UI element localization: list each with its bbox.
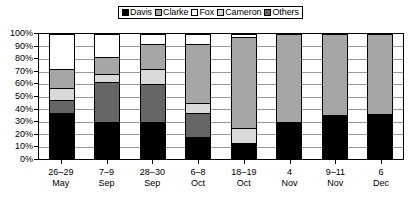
bar-2[interactable] <box>94 34 120 159</box>
y-axis-tick-label: 30% <box>15 117 33 126</box>
bar-segment-fox <box>185 34 211 44</box>
x-axis-label-month: Nov <box>267 178 313 189</box>
plot-area <box>38 33 404 160</box>
bar-8[interactable] <box>367 34 393 159</box>
x-axis-label-day: 4 <box>267 167 313 178</box>
x-axis-category-1: 26–29May <box>38 160 84 198</box>
x-axis-label-month: Sep <box>130 178 176 189</box>
x-axis-label-month: Nov <box>313 178 359 189</box>
x-axis-label-day: 9–11 <box>313 167 359 178</box>
bar-7[interactable] <box>322 34 348 159</box>
bar-slot <box>39 34 85 159</box>
bar-slot <box>358 34 404 159</box>
legend-item-fox[interactable]: Fox <box>191 8 214 17</box>
bar-segment-cameron <box>49 88 75 101</box>
legend-swatch-icon <box>122 9 129 16</box>
bar-segment-davis <box>185 137 211 160</box>
y-axis: 100%90%80%70%60%50%40%30%20%10%0% <box>0 33 38 160</box>
legend-item-label: Clarke <box>163 8 188 17</box>
legend-swatch-icon <box>264 9 271 16</box>
y-axis-tick-label: 0% <box>20 155 33 164</box>
bar-segment-others <box>49 100 75 113</box>
legend-item-label: Others <box>272 8 298 17</box>
y-axis-tick-label: 60% <box>15 79 33 88</box>
x-axis: 26–29May7–9Sep28–30Sep6–8Oct18–19Oct4Nov… <box>38 160 404 198</box>
bar-segment-others <box>185 113 211 137</box>
bar-segment-davis <box>94 122 120 160</box>
bar-segment-davis <box>140 122 166 160</box>
legend-swatch-icon <box>217 9 224 16</box>
x-axis-category-3: 28–30Sep <box>130 160 176 198</box>
bar-slot <box>130 34 176 159</box>
x-axis-label-day: 6 <box>358 167 404 178</box>
bar-segment-fox <box>94 34 120 57</box>
bar-4[interactable] <box>185 34 211 159</box>
x-axis-label-month: Dec <box>358 178 404 189</box>
bar-segment-clarke <box>322 34 348 115</box>
legend-item-label: Cameron <box>225 8 261 17</box>
x-axis-label-day: 6–8 <box>175 167 221 178</box>
x-axis-label-month: May <box>38 178 84 189</box>
bar-3[interactable] <box>140 34 166 159</box>
x-axis-category-8: 6Dec <box>358 160 404 198</box>
y-axis-tick-label: 10% <box>15 142 33 151</box>
bar-segment-fox <box>49 34 75 69</box>
bar-slot <box>221 34 267 159</box>
x-axis-tick-mark <box>107 160 108 164</box>
x-axis-label-month: Oct <box>175 178 221 189</box>
bar-slot <box>267 34 313 159</box>
bar-segment-davis <box>276 122 302 160</box>
legend-item-label: Fox <box>199 8 214 17</box>
x-axis-category-7: 9–11Nov <box>313 160 359 198</box>
bar-slot <box>176 34 222 159</box>
x-axis-tick-mark <box>381 160 382 164</box>
x-axis-category-5: 18–19Oct <box>221 160 267 198</box>
bar-segment-clarke <box>185 44 211 103</box>
bar-slot <box>85 34 131 159</box>
x-axis-label-day: 28–30 <box>130 167 176 178</box>
x-axis-label-month: Oct <box>221 178 267 189</box>
bar-segment-cameron <box>185 103 211 113</box>
y-axis-tick-label: 90% <box>15 42 33 51</box>
x-axis-label-month: Sep <box>84 178 130 189</box>
legend-item-clarke[interactable]: Clarke <box>155 8 188 17</box>
bar-segment-clarke <box>49 69 75 88</box>
bar-1[interactable] <box>49 34 75 159</box>
x-axis-label-day: 26–29 <box>38 167 84 178</box>
y-axis-tick-label: 40% <box>15 105 33 114</box>
bar-segment-davis <box>367 114 393 159</box>
bar-segment-fox <box>140 34 166 44</box>
legend-item-others[interactable]: Others <box>264 8 298 17</box>
bar-segment-clarke <box>140 44 166 69</box>
bar-segment-cameron <box>94 74 120 82</box>
legend-item-davis[interactable]: Davis <box>122 8 152 17</box>
legend-swatch-icon <box>191 9 198 16</box>
stacked-bar-chart: DavisClarkeFoxCameronOthers 100%90%80%70… <box>0 0 410 198</box>
x-axis-category-6: 4Nov <box>267 160 313 198</box>
x-axis-tick-mark <box>244 160 245 164</box>
bar-segment-clarke <box>94 57 120 75</box>
bar-slot <box>312 34 358 159</box>
bar-segment-davis <box>231 143 257 159</box>
bar-6[interactable] <box>276 34 302 159</box>
x-axis-tick-mark <box>61 160 62 164</box>
x-axis-category-2: 7–9Sep <box>84 160 130 198</box>
chart-legend: DavisClarkeFoxCameronOthers <box>118 6 303 19</box>
bar-5[interactable] <box>231 34 257 159</box>
bar-segment-cameron <box>140 69 166 84</box>
y-axis-tick-label: 70% <box>15 67 33 76</box>
x-axis-tick-mark <box>290 160 291 164</box>
x-axis-label-day: 7–9 <box>84 167 130 178</box>
x-axis-label-day: 18–19 <box>221 167 267 178</box>
y-axis-tick-label: 80% <box>15 54 33 63</box>
bar-segment-others <box>94 82 120 122</box>
x-axis-category-4: 6–8Oct <box>175 160 221 198</box>
x-axis-tick-mark <box>198 160 199 164</box>
y-axis-tick-label: 100% <box>10 29 33 38</box>
bar-segment-clarke <box>367 34 393 114</box>
y-axis-tick-label: 20% <box>15 130 33 139</box>
bar-segment-davis <box>322 115 348 159</box>
bars-layer <box>39 34 403 159</box>
bar-segment-clarke <box>276 34 302 122</box>
legend-item-cameron[interactable]: Cameron <box>217 8 261 17</box>
